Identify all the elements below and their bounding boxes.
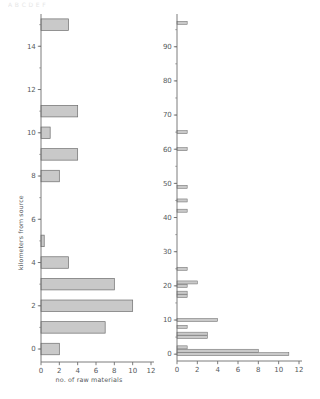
bar bbox=[177, 336, 208, 339]
y-axis-tick-label: 10 bbox=[27, 129, 36, 137]
y-axis-tick-label: 6 bbox=[31, 216, 36, 224]
y-axis-tick-label: 14 bbox=[27, 43, 36, 51]
bar bbox=[177, 21, 187, 24]
bar-chart-right: 0102030405060708090024681012 bbox=[160, 0, 320, 399]
y-axis-tick-label: 70 bbox=[163, 111, 172, 119]
y-axis-tick-label: 90 bbox=[163, 43, 172, 51]
bar bbox=[177, 353, 289, 356]
figure-root: A B C D E F 02468101214024681012 kilomet… bbox=[0, 0, 320, 399]
x-axis-tick-label: 0 bbox=[39, 367, 43, 375]
bar bbox=[177, 295, 187, 298]
y-axis-tick-label: 60 bbox=[163, 146, 172, 154]
bar bbox=[177, 199, 187, 202]
x-axis-tick-label: 6 bbox=[236, 366, 241, 374]
y-axis-tick-label: 12 bbox=[27, 86, 36, 94]
x-axis-title-left: no. of raw materials bbox=[24, 376, 154, 384]
chart-panel-left: 02468101214024681012 kilometers from sou… bbox=[0, 0, 160, 399]
y-axis-tick-label: 2 bbox=[31, 302, 35, 310]
bar bbox=[41, 278, 114, 290]
y-axis-tick-label: 80 bbox=[163, 77, 172, 85]
bar-chart-left: 02468101214024681012 bbox=[0, 0, 160, 399]
bar bbox=[41, 300, 133, 312]
bar bbox=[177, 209, 187, 212]
bar bbox=[177, 291, 187, 294]
bar bbox=[41, 235, 44, 247]
bar bbox=[177, 332, 208, 335]
y-axis-tick-label: 30 bbox=[163, 248, 172, 256]
bar bbox=[41, 149, 78, 161]
y-axis-tick-label: 10 bbox=[163, 316, 172, 324]
bar bbox=[177, 325, 187, 328]
bar bbox=[41, 257, 69, 269]
bar bbox=[41, 322, 105, 334]
y-axis-tick-label: 8 bbox=[31, 172, 35, 180]
bar bbox=[41, 127, 50, 139]
x-axis-tick-label: 12 bbox=[147, 367, 156, 375]
bar bbox=[177, 281, 197, 284]
x-axis-tick-label: 8 bbox=[112, 367, 116, 375]
bar bbox=[177, 267, 187, 270]
bar bbox=[177, 131, 187, 134]
x-axis-tick-label: 4 bbox=[215, 366, 220, 374]
bar bbox=[177, 284, 187, 287]
x-axis-tick-label: 6 bbox=[94, 367, 99, 375]
y-axis-title-left: kilometers from source bbox=[17, 158, 24, 270]
bar-series bbox=[177, 21, 289, 355]
x-axis-tick-label: 10 bbox=[128, 367, 137, 375]
x-axis-tick-label: 2 bbox=[57, 367, 61, 375]
x-axis-tick-label: 0 bbox=[175, 366, 179, 374]
y-axis-tick-label: 4 bbox=[31, 259, 36, 267]
x-axis-tick-label: 2 bbox=[195, 366, 199, 374]
y-axis-tick-label: 50 bbox=[163, 180, 172, 188]
bar bbox=[177, 148, 187, 151]
y-axis-tick-label: 0 bbox=[31, 345, 35, 353]
chart-panel-right: 0102030405060708090024681012 kilometers … bbox=[160, 0, 320, 399]
y-axis-tick-label: 0 bbox=[167, 350, 171, 358]
y-axis-tick-label: 20 bbox=[163, 282, 172, 290]
x-axis-tick-label: 12 bbox=[295, 366, 304, 374]
bar bbox=[41, 19, 69, 31]
bar bbox=[177, 185, 187, 188]
bar-series bbox=[41, 19, 133, 355]
bar bbox=[41, 343, 59, 355]
x-axis-tick-label: 8 bbox=[256, 366, 260, 374]
bar bbox=[41, 105, 78, 117]
y-axis-tick-label: 40 bbox=[163, 214, 172, 222]
bar bbox=[177, 319, 218, 322]
bar bbox=[177, 349, 258, 352]
bar bbox=[41, 170, 59, 182]
x-axis-tick-label: 10 bbox=[274, 366, 283, 374]
x-axis-tick-label: 4 bbox=[75, 367, 80, 375]
bar bbox=[177, 346, 187, 349]
